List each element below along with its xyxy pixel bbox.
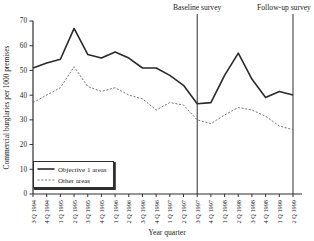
x-tick-label: 1 Q 1995 [57,200,64,223]
y-tick-label: 0 [23,190,27,198]
y-tick-label: 10 [20,166,28,174]
y-tick-label: 70 [20,17,28,25]
burglary-trend-figure: 0102030405060703 Q 19944 Q 19941 Q 19952… [0,0,314,241]
survey-marker-label: Follow-up survey [257,3,311,12]
x-tick-label: 2 Q 1995 [71,200,78,223]
x-tick-label: 4 Q 1994 [43,199,50,223]
survey-marker-label: Baseline survey [173,3,221,12]
x-tick-label: 1 Q 1996 [112,200,119,223]
x-tick-label: 1 Q 1999 [276,200,283,223]
x-tick-label: 4 Q 1995 [98,200,105,223]
commercial-burglaries-line-chart: 0102030405060703 Q 19944 Q 19941 Q 19952… [0,0,314,241]
x-axis-title: Year quarter [148,228,186,237]
y-axis-title: Commercial burglaries per 1000 premises [2,45,11,169]
y-tick-label: 40 [20,92,28,100]
series-line-solid [33,28,293,103]
y-tick-label: 60 [20,42,28,50]
x-tick-label: 3 Q 1994 [30,199,37,223]
x-tick-label: 2 Q 1996 [125,200,132,223]
x-tick-label: 3 Q 1996 [139,200,146,223]
x-tick-label: 1 Q 1997 [166,200,173,223]
x-tick-label: 2 Q 1999 [290,200,297,223]
y-tick-label: 50 [20,67,28,75]
series-line-dotted [33,67,293,130]
x-tick-label: 4 Q 1997 [207,200,214,223]
x-tick-label: 4 Q 1998 [262,200,269,223]
x-tick-label: 3 Q 1995 [84,200,91,223]
x-tick-label: 1 Q 1998 [221,200,228,223]
x-tick-label: 4 Q 1996 [153,200,160,223]
y-tick-label: 30 [20,116,28,124]
y-tick-label: 20 [20,141,28,149]
x-tick-label: 3 Q 1997 [194,200,201,223]
legend-label: Objective 1 areas [58,166,107,174]
x-tick-label: 3 Q 1998 [249,200,256,223]
x-tick-label: 2 Q 1998 [235,200,242,223]
x-tick-label: 2 Q 1997 [180,200,187,223]
legend-label: Other areas [58,177,90,185]
